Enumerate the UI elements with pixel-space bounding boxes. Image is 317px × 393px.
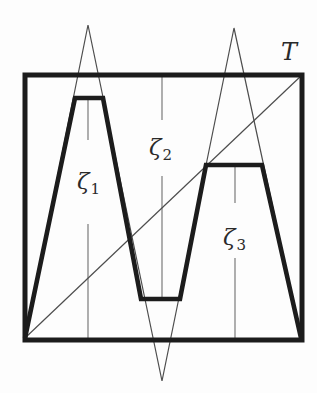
zeta-3-symbol: ζ [223,224,235,250]
label-T: T [281,40,297,64]
zeta-2-symbol: ζ [149,134,161,160]
figure-canvas: T ζ1 ζ2 ζ3 [0,0,317,393]
label-zeta-3: ζ3 [223,226,245,249]
label-T-text: T [281,38,297,66]
label-zeta-1: ζ1 [77,170,99,193]
tent-zigzag-thin-line [25,25,301,381]
zeta-1-subscript: 1 [90,180,100,198]
truncated-map-curve [25,98,301,338]
label-zeta-2: ζ2 [149,136,171,159]
zeta-1-symbol: ζ [77,168,89,194]
map-diagram-svg [0,0,317,393]
zeta-3-subscript: 3 [236,236,246,254]
zeta-2-subscript: 2 [162,146,172,164]
